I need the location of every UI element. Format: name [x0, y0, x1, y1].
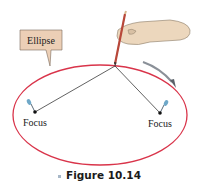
ellipse-diagram: Ellipse Focus Focus	[0, 0, 199, 190]
string-right	[115, 66, 160, 113]
ellipse-label: Ellipse	[27, 35, 55, 46]
pin-icon	[158, 99, 169, 114]
focus-label-right: Focus	[148, 118, 172, 129]
direction-arrow-icon	[143, 62, 176, 88]
string-left	[35, 66, 115, 112]
figure-caption: Figure 10.14	[0, 169, 199, 181]
pin-icon	[26, 98, 37, 113]
ellipse-curve	[13, 65, 187, 165]
caption-bullet-icon	[58, 175, 61, 178]
ellipse-label-callout: Ellipse	[20, 30, 62, 66]
focus-label-left: Focus	[23, 117, 47, 128]
hand-pencil-icon	[114, 11, 190, 67]
caption-text: Figure 10.14	[66, 169, 141, 181]
